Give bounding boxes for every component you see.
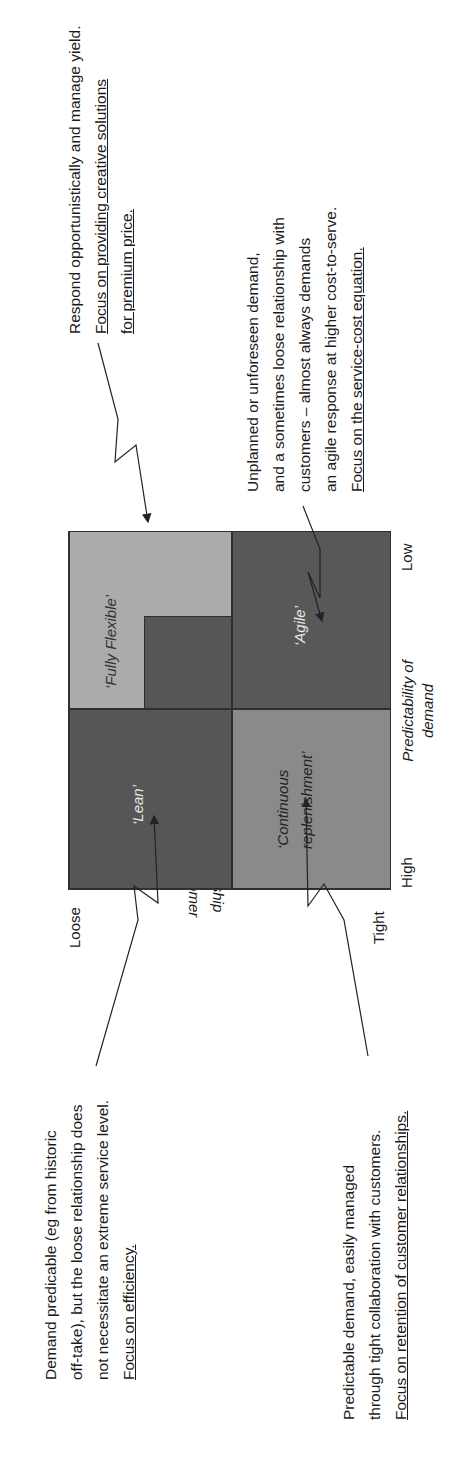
continuous-arrow-icon <box>306 799 368 1056</box>
agile-arrow-icon <box>303 506 322 621</box>
leader-arrows <box>0 0 464 1476</box>
diagram-canvas: Demand predicable (eg from historic off-… <box>0 0 464 1476</box>
lean-arrow-icon <box>96 816 158 1066</box>
fully-flexible-arrow-icon <box>98 343 148 522</box>
